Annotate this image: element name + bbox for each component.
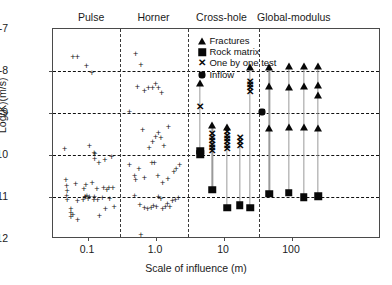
- data-point-plus: +: [75, 216, 80, 225]
- legend-label: One by one test: [209, 57, 276, 68]
- y-tick-mark-2: [49, 113, 53, 114]
- x-tick-mark-1: [156, 237, 157, 241]
- data-point-fracture: [300, 62, 308, 69]
- data-point-fracture: [300, 82, 308, 89]
- data-point-rockmatrix: [266, 190, 274, 198]
- data-point-inflow: [258, 109, 265, 116]
- data-point-plus: +: [75, 197, 80, 206]
- y-tick-label-0: -7: [0, 22, 8, 34]
- x-tick-label-3: 100: [282, 243, 300, 255]
- data-point-plus: +: [138, 231, 143, 240]
- data-point-plus: +: [73, 180, 78, 189]
- legend-item-0: Fractures: [197, 35, 276, 46]
- y-tick-label-3: -10: [0, 148, 8, 160]
- data-point-rockmatrix: [196, 150, 204, 158]
- figure-chart: Log(K)(m/s) Scale of influence (m) Pulse…: [0, 0, 392, 285]
- legend-label: Rock matrix: [209, 46, 259, 57]
- data-point-plus: +: [127, 108, 132, 117]
- data-point-plus: +: [97, 212, 102, 221]
- x-tick-label-2: 10: [217, 243, 229, 255]
- data-point-plus: +: [100, 194, 105, 203]
- y-tick-label-4: -11: [0, 190, 8, 202]
- region-title-0: Pulse: [78, 11, 104, 23]
- data-point-plus: +: [166, 122, 171, 131]
- legend-item-2: ✕One by one test: [197, 57, 276, 68]
- legend-label: Fractures: [209, 35, 249, 46]
- x-tick-mark-2: [224, 237, 225, 241]
- data-point-plus: +: [165, 175, 170, 184]
- data-point-plus: +: [140, 125, 145, 134]
- x-tick-mark-3: [292, 237, 293, 241]
- data-point-fracture: [196, 80, 204, 87]
- data-point-plus: +: [133, 50, 138, 59]
- legend-marker: [199, 48, 207, 56]
- data-point-fracture: [314, 81, 322, 88]
- y-tick-label-1: -8: [0, 64, 8, 76]
- data-point-plus: +: [142, 174, 147, 183]
- data-point-fracture: [285, 123, 293, 130]
- chart-legend: FracturesRock matrix✕One by one testInfl…: [197, 35, 276, 80]
- pentagon-icon: [197, 69, 208, 80]
- data-point-rockmatrix: [209, 186, 217, 194]
- data-point-plus: +: [62, 144, 67, 153]
- data-point-plus: +: [75, 52, 80, 61]
- data-point-plus: +: [176, 194, 181, 203]
- region-title-3: Global-modulus: [257, 11, 331, 23]
- data-point-rockmatrix: [300, 194, 308, 202]
- legend-item-3: Inflow: [197, 69, 276, 80]
- data-point-onebyone: ✕: [208, 147, 216, 157]
- data-point-plus: +: [83, 180, 88, 189]
- data-point-plus: +: [127, 160, 132, 169]
- x-tick-label-1: 1.0: [148, 243, 163, 255]
- y-tick-label-2: -9: [0, 106, 8, 118]
- region-title-2: Cross-hole: [196, 11, 247, 23]
- data-point-plus: +: [102, 156, 107, 165]
- data-point-rockmatrix: [314, 192, 322, 200]
- data-point-plus: +: [109, 153, 114, 162]
- data-point-fracture: [314, 92, 322, 99]
- data-point-plus: +: [136, 164, 141, 173]
- data-point-plus: +: [161, 141, 166, 150]
- data-point-plus: +: [84, 61, 89, 70]
- x-tick-label-0: 0.1: [80, 243, 95, 255]
- data-point-rockmatrix: [246, 204, 254, 212]
- data-point-plus: +: [177, 160, 182, 169]
- data-point-rockmatrix: [223, 204, 231, 212]
- x-tick-mark-0: [88, 237, 89, 241]
- data-point-plus: +: [159, 89, 164, 98]
- triangle-icon: [197, 35, 208, 46]
- data-point-fracture: [265, 124, 273, 131]
- data-point-onebyone: ✕: [223, 144, 231, 154]
- data-point-plus: +: [96, 159, 101, 168]
- data-point-plus: +: [152, 159, 157, 168]
- data-point-rockmatrix: [285, 189, 293, 197]
- data-point-plus: +: [103, 204, 108, 213]
- legend-marker: [199, 71, 206, 78]
- data-point-onebyone: ✕: [196, 102, 204, 112]
- y-tick-mark-1: [49, 71, 53, 72]
- y-tick-mark-4: [49, 197, 53, 198]
- region-separator: [188, 29, 189, 237]
- x-axis-label: Scale of influence (m): [145, 262, 247, 274]
- square-icon: [197, 46, 208, 57]
- legend-label: Inflow: [209, 69, 234, 80]
- gridline-horizontal: [53, 113, 379, 114]
- data-point-fracture: [314, 124, 322, 131]
- data-point-onebyone: ✕: [236, 142, 244, 152]
- data-point-fracture: [314, 62, 322, 69]
- stem-line: [199, 83, 200, 151]
- data-point-plus: +: [133, 176, 138, 185]
- x-icon: ✕: [197, 57, 208, 68]
- data-point-onebyone: ✕: [246, 87, 254, 97]
- data-point-plus: +: [111, 202, 116, 211]
- region-separator: [120, 29, 121, 237]
- data-point-fracture: [285, 62, 293, 69]
- legend-item-1: Rock matrix: [197, 46, 276, 57]
- data-point-rockmatrix: [236, 201, 244, 209]
- data-point-fracture: [300, 123, 308, 130]
- data-point-fracture: [285, 83, 293, 90]
- region-title-1: Horner: [137, 11, 169, 23]
- data-point-plus: +: [89, 68, 94, 77]
- y-tick-label-5: -12: [0, 232, 8, 244]
- data-point-plus: +: [110, 184, 115, 193]
